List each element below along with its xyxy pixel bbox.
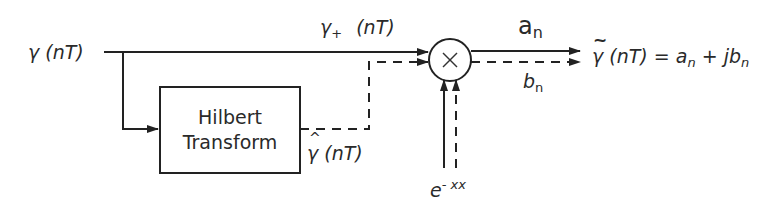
branch-to-hilbert: [123, 52, 158, 129]
upper-path-label: γ+ (nT): [320, 16, 395, 41]
exponential-label: e- xx: [430, 177, 466, 201]
hilbert-output-path: [300, 62, 428, 129]
output-real-label: an: [518, 12, 543, 42]
output-imag-label: bn: [523, 70, 543, 95]
hilbert-output-label: γ (nT): [307, 142, 363, 164]
output-equation: γ (nT) = an + jbn: [592, 45, 749, 70]
hilbert-block-label: Hilbert Transform: [160, 87, 300, 173]
input-label: γ (nT): [28, 41, 84, 63]
